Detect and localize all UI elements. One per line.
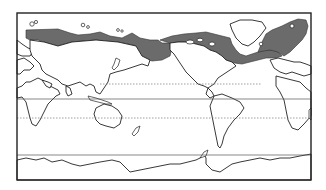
island xyxy=(87,26,90,29)
africa xyxy=(17,78,60,126)
island xyxy=(186,40,194,44)
iceland xyxy=(259,42,263,46)
africa-west xyxy=(17,58,34,74)
latitude-lines xyxy=(17,84,311,155)
island xyxy=(81,23,85,27)
central-america xyxy=(206,88,214,98)
island xyxy=(197,38,203,42)
island xyxy=(290,24,294,28)
island xyxy=(121,30,123,32)
shaded-region-north-atlantic xyxy=(258,19,308,56)
south-america xyxy=(210,94,244,148)
new-zealand xyxy=(132,126,140,136)
island xyxy=(209,42,215,46)
antarctica xyxy=(17,154,311,180)
africa-east xyxy=(276,76,311,130)
europe xyxy=(270,58,311,76)
island xyxy=(30,22,34,26)
world-map xyxy=(0,0,326,190)
island xyxy=(34,20,37,23)
island xyxy=(117,29,120,32)
australia xyxy=(94,104,122,128)
antarctic-peninsula xyxy=(200,150,208,158)
indonesia xyxy=(88,96,112,104)
